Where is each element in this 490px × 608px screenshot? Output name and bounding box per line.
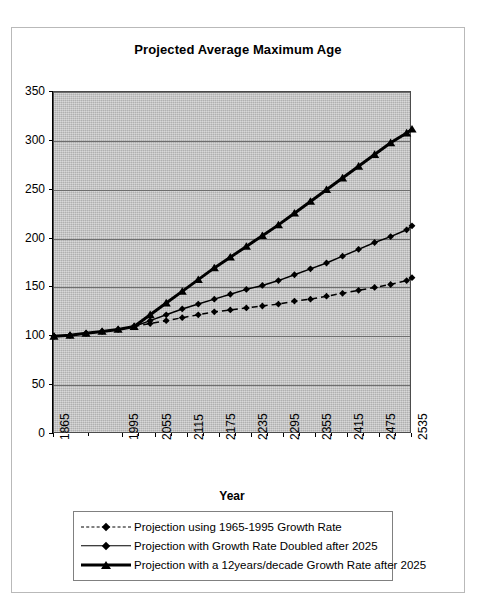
legend-item[interactable]: Projection with a 12years/decade Growth … [80, 555, 386, 574]
series-marker [259, 303, 266, 310]
series-marker [211, 296, 218, 303]
chart-legend: Projection using 1965-1995 Growth RatePr… [73, 511, 393, 581]
x-tick-mark [411, 433, 412, 437]
series-line [54, 129, 412, 336]
series-marker [275, 301, 282, 308]
series-marker [179, 314, 186, 321]
x-tick-mark [347, 433, 348, 437]
diamond-marker-icon [102, 522, 110, 530]
series-marker [163, 311, 170, 318]
series-marker [195, 311, 202, 318]
legend-item[interactable]: Projection with Growth Rate Doubled afte… [80, 536, 386, 555]
legend-label: Projection with Growth Rate Doubled afte… [134, 540, 378, 552]
legend-label: Projection with a 12years/decade Growth … [134, 559, 426, 571]
series-marker [179, 306, 186, 313]
series-marker [387, 281, 394, 288]
legend-label: Projection using 1965-1995 Growth Rate [134, 521, 342, 533]
x-tick-minor [395, 433, 396, 436]
legend-sample [80, 538, 132, 554]
x-tick-minor [138, 433, 139, 436]
series-marker [243, 305, 250, 312]
y-tick-label: 0 [11, 426, 45, 440]
triangle-marker-icon [101, 561, 111, 569]
series-marker [339, 253, 346, 260]
series-marker [163, 317, 170, 324]
y-tick-label: 50 [11, 377, 45, 391]
chart-frame: Projected Average Maximum Age 0501001502… [11, 27, 465, 593]
x-tick-mark [251, 433, 252, 437]
x-tick-mark [53, 433, 54, 437]
series-marker [291, 298, 298, 305]
x-tick-mark [315, 433, 316, 437]
series-marker [307, 296, 314, 303]
x-tick-minor [363, 433, 364, 436]
series-marker [355, 287, 362, 294]
series-marker [355, 246, 362, 253]
x-tick-label: 2535 [416, 413, 430, 440]
y-tick-label: 200 [11, 231, 45, 245]
series-marker [339, 290, 346, 297]
series-marker [387, 233, 394, 240]
y-tick-label: 250 [11, 182, 45, 196]
series-marker [403, 277, 410, 284]
x-tick-mark [219, 433, 220, 437]
y-tick-label: 150 [11, 279, 45, 293]
x-tick-minor [331, 433, 332, 436]
series-marker [259, 282, 266, 289]
chart-title: Projected Average Maximum Age [12, 42, 464, 57]
x-tick-mark [283, 433, 284, 437]
x-tick-minor [203, 433, 204, 436]
series-marker [371, 284, 378, 291]
series-marker [275, 277, 282, 284]
series-marker [195, 301, 202, 308]
x-axis-title: Year [53, 489, 411, 503]
legend-item[interactable]: Projection using 1965-1995 Growth Rate [80, 517, 386, 536]
x-tick-label: 2115 [192, 414, 206, 440]
series-marker [243, 286, 250, 293]
legend-sample [80, 557, 132, 573]
series-marker [409, 274, 416, 281]
x-tick-mark [187, 433, 188, 437]
y-tick-label: 300 [11, 133, 45, 147]
series-line [54, 226, 412, 336]
series-marker [291, 271, 298, 278]
series-marker [211, 308, 218, 315]
y-tick-label: 350 [11, 84, 45, 98]
y-axis-line [52, 91, 53, 433]
series-marker [323, 260, 330, 267]
plot-area [53, 91, 411, 433]
x-tick-minor [299, 433, 300, 436]
x-tick-mark [122, 433, 123, 437]
x-tick-minor [267, 433, 268, 436]
x-tick-minor [235, 433, 236, 436]
series-marker [323, 293, 330, 300]
series-marker [407, 125, 416, 133]
x-tick-label: 1865 [58, 413, 72, 440]
x-tick-mark [379, 433, 380, 437]
series-line [54, 278, 412, 337]
legend-sample [80, 519, 132, 535]
x-tick-mark [155, 433, 156, 437]
series-marker [307, 265, 314, 272]
series-marker [371, 239, 378, 246]
series-marker [227, 291, 234, 298]
y-tick-label: 100 [11, 328, 45, 342]
series-layer [54, 92, 412, 434]
x-tick-minor [171, 433, 172, 436]
diamond-marker-icon [102, 541, 110, 549]
series-marker [227, 307, 234, 314]
x-tick-minor [88, 433, 89, 436]
